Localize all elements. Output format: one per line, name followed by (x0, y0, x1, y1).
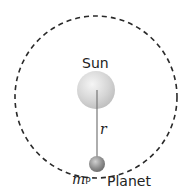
planet-mass-symbol: m (72, 171, 85, 187)
planet (89, 156, 105, 172)
sun (77, 71, 115, 109)
orbit-diagram (0, 0, 189, 191)
planet-label: Planet (107, 174, 151, 188)
radius-label: r (100, 122, 107, 136)
planet-mass-label: mP (72, 172, 91, 186)
planet-mass-subscript: P (85, 176, 90, 186)
sun-label: Sun (82, 56, 109, 70)
